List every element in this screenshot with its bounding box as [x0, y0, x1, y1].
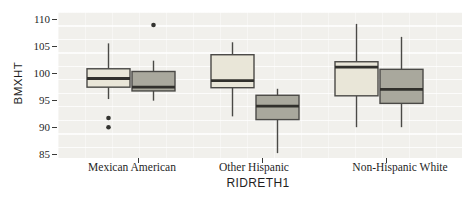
y-tick-label: 90	[10, 121, 50, 133]
y-tick-mark	[52, 100, 57, 101]
x-category-label: Other Hispanic	[219, 161, 289, 173]
x-category-label: Mexican American	[88, 161, 176, 173]
boxplot-svg	[58, 12, 462, 158]
outlier-point	[151, 23, 156, 28]
y-tick-mark	[52, 154, 57, 155]
y-tick-label: 110	[10, 13, 50, 25]
boxplot-figure: BMXHT 859095100105110 Mexican AmericanOt…	[0, 0, 474, 198]
y-tick-mark	[52, 46, 57, 47]
y-tick-mark	[52, 19, 57, 20]
outlier-point	[106, 125, 111, 130]
y-tick-mark	[52, 73, 57, 74]
y-tick-label: 100	[10, 67, 50, 79]
plot-panel	[58, 12, 462, 158]
y-tick-label: 85	[10, 148, 50, 160]
y-tick-mark	[52, 127, 57, 128]
box-group-1-light-2	[211, 55, 254, 88]
x-axis-title: RIDRETH1	[226, 176, 289, 190]
y-tick-label: 105	[10, 40, 50, 52]
outlier-point	[106, 116, 111, 121]
y-tick-label: 95	[10, 94, 50, 106]
box-group-2-dark-3	[380, 69, 423, 103]
x-category-label: Non-Hispanic White	[352, 161, 447, 173]
